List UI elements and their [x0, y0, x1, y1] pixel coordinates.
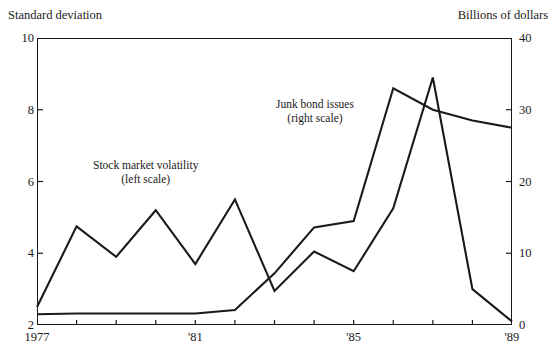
left-axis-tick-label: 10 [22, 31, 35, 46]
x-axis-tick-label: '85 [346, 330, 361, 345]
annotation-volatility-title: Stock market volatility [93, 158, 198, 172]
right-axis-tick-label: 10 [519, 246, 532, 261]
right-axis-tick-label: 0 [519, 318, 525, 333]
right-axis-title: Billions of dollars [458, 8, 548, 23]
x-axis-tick-label: '81 [188, 330, 203, 345]
right-axis-tick-label: 30 [519, 102, 532, 117]
right-axis-tick-label: 40 [519, 31, 532, 46]
annotation-stock-market-volatility: Stock market volatility (left scale) [93, 158, 198, 186]
left-axis-tick-label: 4 [28, 246, 34, 261]
annotation-volatility-scale: (left scale) [93, 172, 198, 186]
right-axis-tick-label: 20 [519, 174, 532, 189]
x-axis-tick-label: 1977 [25, 330, 50, 345]
left-axis-tick-label: 6 [28, 174, 34, 189]
annotation-junkbond-title: Junk bond issues [276, 97, 354, 111]
x-axis-tick-label: '89 [505, 330, 520, 345]
annotation-junkbond-scale: (right scale) [276, 111, 354, 125]
left-axis-tick-label: 8 [28, 102, 34, 117]
annotation-junk-bond-issues: Junk bond issues (right scale) [276, 97, 354, 125]
left-axis-title: Standard deviation [8, 8, 102, 23]
dual-axis-line-chart: Standard deviation Billions of dollars 2… [0, 0, 556, 359]
